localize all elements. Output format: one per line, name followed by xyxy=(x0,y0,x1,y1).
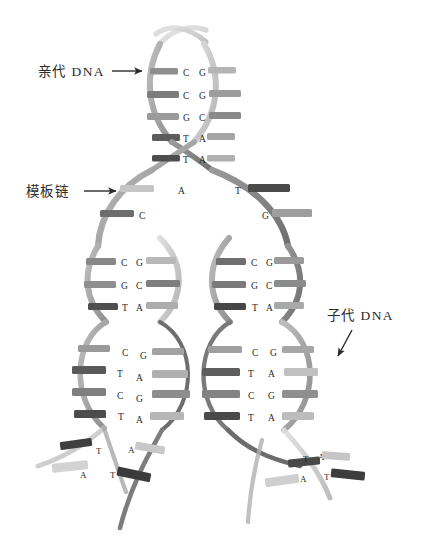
svg-text:T: T xyxy=(183,155,189,165)
svg-text:T: T xyxy=(183,134,189,144)
svg-text:A: A xyxy=(268,413,275,423)
svg-text:C: C xyxy=(183,91,189,101)
label-daughter-dna-text: 子代 DNA xyxy=(327,308,394,323)
svg-text:A: A xyxy=(128,445,135,455)
svg-text:T: T xyxy=(118,412,124,422)
label-daughter-dna-arrow xyxy=(338,330,352,356)
svg-text:G: G xyxy=(251,281,258,291)
svg-text:C: C xyxy=(139,211,145,221)
svg-text:A: A xyxy=(136,415,143,425)
svg-text:A: A xyxy=(199,134,206,144)
dna-replication-figure: C G C G G C T A T A A T C G xyxy=(0,0,425,552)
svg-text:T: T xyxy=(110,470,116,480)
label-daughter-dna: 子代 DNA xyxy=(327,308,394,356)
svg-text:T: T xyxy=(252,303,258,313)
svg-text:G: G xyxy=(199,91,206,101)
svg-text:G: G xyxy=(183,113,190,123)
daughter-helix-right-upper: C G G C T A xyxy=(212,238,306,322)
svg-text:G: G xyxy=(262,211,269,221)
svg-text:T: T xyxy=(96,446,102,456)
svg-text:A: A xyxy=(178,186,185,196)
svg-text:C: C xyxy=(183,68,189,78)
svg-text:T: T xyxy=(117,369,123,379)
svg-text:T: T xyxy=(235,186,241,196)
parent-helix-top-crossover xyxy=(156,28,206,46)
label-parent-dna-text: 亲代 DNA xyxy=(38,64,105,79)
svg-text:A: A xyxy=(268,369,275,379)
svg-text:G: G xyxy=(270,348,277,358)
tail-right: T A A T xyxy=(228,430,365,522)
svg-text:A: A xyxy=(300,474,307,484)
svg-text:T: T xyxy=(248,413,254,423)
svg-text:C: C xyxy=(199,113,205,123)
svg-text:G: G xyxy=(140,351,147,361)
daughter-helix-left-upper: C G G C T A xyxy=(84,238,180,322)
svg-text:T: T xyxy=(303,454,309,464)
svg-text:C: C xyxy=(136,281,142,291)
svg-text:T: T xyxy=(248,369,254,379)
svg-text:G: G xyxy=(266,258,273,268)
svg-text:C: C xyxy=(122,348,128,358)
svg-text:A: A xyxy=(80,470,87,480)
svg-text:G: G xyxy=(199,68,206,78)
replication-fork: A T C G xyxy=(98,170,312,246)
svg-text:C: C xyxy=(251,258,257,268)
svg-text:G: G xyxy=(136,258,143,268)
daughter-helix-right-lower: C G T A C G T A xyxy=(202,322,318,430)
svg-text:C: C xyxy=(266,281,272,291)
svg-text:C: C xyxy=(248,391,254,401)
svg-text:C: C xyxy=(117,391,123,401)
svg-text:A: A xyxy=(199,155,206,165)
daughter-helix-left-lower: C G T A C G T A xyxy=(72,322,190,430)
svg-text:G: G xyxy=(136,394,143,404)
label-template-strand: 模板链 xyxy=(26,184,116,199)
label-parent-dna: 亲代 DNA xyxy=(38,64,142,79)
parent-helix-mid-crossover: T A xyxy=(152,142,235,170)
svg-text:C: C xyxy=(121,258,127,268)
svg-text:G: G xyxy=(268,391,275,401)
svg-text:T: T xyxy=(122,303,128,313)
tail-left: T A A T xyxy=(38,428,165,528)
svg-text:T: T xyxy=(324,472,330,482)
svg-text:A: A xyxy=(136,303,143,313)
svg-text:A: A xyxy=(266,303,273,313)
label-template-strand-text: 模板链 xyxy=(26,184,69,199)
svg-text:G: G xyxy=(121,281,128,291)
svg-text:C: C xyxy=(252,348,258,358)
svg-text:A: A xyxy=(136,373,143,383)
